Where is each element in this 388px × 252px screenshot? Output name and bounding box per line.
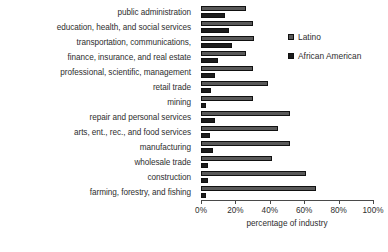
x-axis-tick-label: 0% [195, 206, 207, 215]
bar-latino [201, 36, 254, 41]
chart-legend: LatinoAfrican American [288, 32, 361, 70]
bar-group [201, 80, 373, 95]
bar-latino [201, 81, 268, 86]
bar-chart: public administrationeducation, health, … [0, 0, 388, 252]
x-axis-title: percentage of industry [201, 219, 373, 228]
legend-swatch-icon [288, 53, 294, 59]
footer-artifact-strip [0, 242, 388, 252]
bar-african-american [201, 73, 215, 78]
bar-african-american [201, 148, 213, 153]
category-label: public administration [0, 5, 196, 20]
bar-group [201, 125, 373, 140]
bar-latino [201, 21, 253, 26]
category-label: professional, scientific, management [0, 65, 196, 80]
bar-african-american [201, 88, 211, 93]
category-label: construction [0, 170, 196, 185]
category-label: retail trade [0, 80, 196, 95]
x-axis-tick [270, 200, 271, 204]
x-axis-tick [201, 200, 202, 204]
bar-african-american [201, 178, 208, 183]
bar-african-american [201, 118, 215, 123]
bar-latino [201, 141, 290, 146]
category-label: wholesale trade [0, 155, 196, 170]
bar-group [201, 185, 373, 200]
bar-group [201, 5, 373, 20]
bar-group [201, 155, 373, 170]
legend-swatch-icon [288, 34, 294, 40]
category-label: mining [0, 95, 196, 110]
bar-group [201, 110, 373, 125]
category-label: manufacturing [0, 140, 196, 155]
x-axis-tick [373, 200, 374, 204]
x-axis-tick-label: 40% [262, 206, 278, 215]
category-label: finance, insurance, and real estate [0, 50, 196, 65]
legend-item: Latino [288, 32, 361, 42]
bar-african-american [201, 28, 229, 33]
x-axis-tick [339, 200, 340, 204]
legend-item: African American [288, 51, 361, 61]
bar-african-american [201, 103, 206, 108]
bar-latino [201, 171, 306, 176]
x-axis-tick-label: 60% [296, 206, 312, 215]
x-axis-tick [304, 200, 305, 204]
bar-african-american [201, 13, 225, 18]
category-label: arts, ent., rec., and food services [0, 125, 196, 140]
bar-group [201, 95, 373, 110]
x-axis-tick-label: 80% [330, 206, 346, 215]
bar-latino [201, 96, 253, 101]
bar-african-american [201, 133, 210, 138]
bar-latino [201, 6, 246, 11]
bar-group [201, 140, 373, 155]
bar-group [201, 170, 373, 185]
bar-latino [201, 51, 246, 56]
x-axis-line [201, 200, 373, 201]
x-axis-tick-label: 100% [363, 206, 384, 215]
category-label: farming, forestry, and fishing [0, 185, 196, 200]
category-label: transportation, communications, [0, 35, 196, 50]
bar-african-american [201, 193, 206, 198]
bar-latino [201, 66, 253, 71]
x-axis-tick-label: 20% [227, 206, 243, 215]
bar-african-american [201, 163, 208, 168]
bar-african-american [201, 43, 232, 48]
legend-label: Latino [298, 32, 321, 42]
category-label: education, health, and social services [0, 20, 196, 35]
category-axis-labels: public administrationeducation, health, … [0, 5, 196, 200]
bar-latino [201, 111, 290, 116]
bar-latino [201, 156, 272, 161]
bar-african-american [201, 58, 218, 63]
x-axis-tick [235, 200, 236, 204]
bar-latino [201, 186, 316, 191]
legend-label: African American [298, 51, 361, 61]
bar-latino [201, 126, 278, 131]
category-label: repair and personal services [0, 110, 196, 125]
